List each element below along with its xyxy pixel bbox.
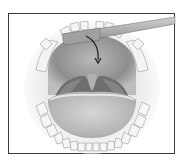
illustration-svg — [0, 0, 186, 163]
mouth-illustration — [0, 0, 186, 163]
